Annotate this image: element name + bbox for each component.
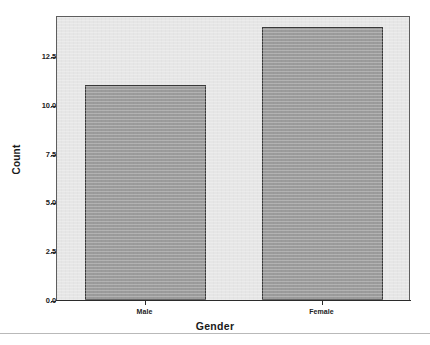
x-axis-tick-label: Female <box>282 306 362 318</box>
bar-chart-figure: Count 0.02.55.07.510.012.5 MaleFemale Ge… <box>0 0 430 345</box>
plot-area <box>56 16 410 301</box>
x-axis-line <box>56 300 411 301</box>
bar-male <box>85 85 206 300</box>
y-axis-title: Count <box>6 128 28 190</box>
bar-female <box>262 27 383 300</box>
footer-divider <box>0 333 430 334</box>
x-axis-tick-mark <box>145 301 146 305</box>
x-axis-tick-mark <box>322 301 323 305</box>
y-axis-title-text: Count <box>12 144 23 174</box>
y-axis-tick-mark <box>51 301 56 302</box>
x-axis-tick-label: Male <box>105 306 185 318</box>
x-axis-title: Gender <box>0 320 430 332</box>
